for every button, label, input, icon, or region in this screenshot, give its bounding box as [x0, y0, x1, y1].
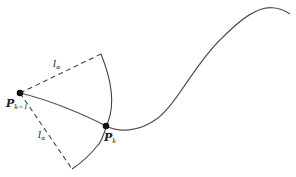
path-curve-diagram: Pk−1 Pk lα lα [0, 0, 296, 177]
upper-radius-line [20, 54, 101, 93]
label-p-k-minus-1: Pk−1 [5, 97, 28, 111]
label-p-k: Pk [103, 131, 116, 145]
label-upper-length: lα [53, 58, 60, 70]
search-arc [72, 54, 112, 169]
label-lower-length: lα [38, 129, 45, 141]
trajectory-curve [20, 8, 290, 130]
point-p-k [103, 123, 110, 130]
point-p-k-minus-1 [17, 90, 24, 97]
